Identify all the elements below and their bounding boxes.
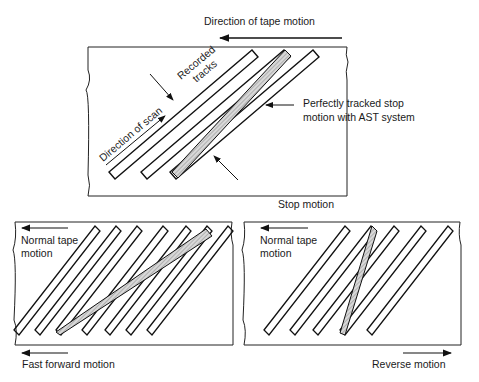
scan-path-pointer-arrow	[214, 156, 238, 180]
tape-motion-label: Direction of tape motion	[204, 15, 315, 27]
normal-tape-label-2: motion	[21, 247, 53, 259]
normal-tape-label-1: Normal tape	[260, 234, 317, 246]
normal-tape-label-1: Normal tape	[21, 234, 78, 246]
normal-tape-label-2: motion	[260, 247, 292, 259]
stop-motion-caption: Stop motion	[278, 198, 334, 210]
stop-motion-panel: Direction of tape motion Recorded tracks…	[86, 15, 415, 210]
fast-forward-caption: Fast forward motion	[22, 358, 115, 370]
tracks-pointer-arrow	[150, 74, 173, 100]
reverse-caption: Reverse motion	[372, 358, 446, 370]
ast-label-2: motion with AST system	[303, 111, 415, 123]
helical-scan-diagram: Direction of tape motion Recorded tracks…	[0, 0, 479, 382]
fast-forward-panel: Normal tape motion Fast forward motion	[13, 222, 233, 370]
ast-label-1: Perfectly tracked stop	[303, 97, 404, 109]
reverse-panel: Normal tape motion Reverse motion	[242, 222, 461, 370]
